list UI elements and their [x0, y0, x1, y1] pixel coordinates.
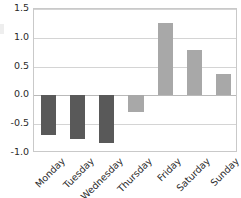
- bar-chart-figure: 1.51.00.50.0-0.5-1.0 MondayTuesdayWednes…: [0, 0, 241, 198]
- x-tick-label-text: Sunday: [209, 156, 241, 188]
- x-tick-label-text: Monday: [33, 156, 66, 189]
- x-axis-tick-labels: MondayTuesdayWednesdayThursdayFridaySatu…: [0, 0, 241, 198]
- x-tick-label-sunday: Sunday: [209, 156, 241, 188]
- x-tick-label-monday: Monday: [33, 156, 66, 189]
